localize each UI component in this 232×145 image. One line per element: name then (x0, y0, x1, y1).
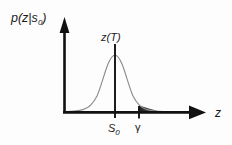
y-axis-label: p(z|s0) (10, 11, 47, 27)
density-curve (66, 55, 182, 112)
x-axis-label: z (214, 106, 221, 120)
figure-canvas: p(z|s0) z(T) S0 γ z (0, 0, 232, 145)
x-axis (63, 106, 206, 120)
tick-label-s0-subscript: 0 (115, 128, 120, 137)
y-axis (60, 17, 70, 113)
tick-label-gamma: γ (135, 121, 141, 133)
tick-label-s0: S0 (108, 122, 120, 137)
y-axis-label-main: p(z|s (10, 11, 38, 25)
peak-label: z(T) (100, 31, 121, 43)
probability-density-figure: p(z|s0) z(T) S0 γ z (0, 0, 232, 145)
